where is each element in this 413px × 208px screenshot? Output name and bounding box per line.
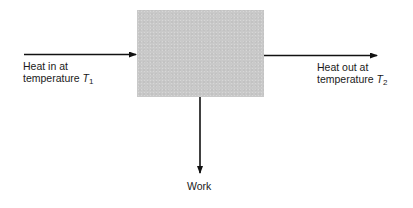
work-label: Work [187, 180, 211, 192]
subscript-2: 2 [383, 78, 387, 87]
subscript-1: 1 [89, 77, 93, 86]
heat-out-label: Heat out at temperature T2 [317, 61, 387, 89]
heat-out-line1: Heat out at [317, 61, 387, 73]
heat-out-line2: temperature T2 [317, 73, 387, 89]
heat-out-prefix: temperature [317, 73, 374, 85]
heat-in-prefix: temperature [23, 72, 80, 84]
arrows-layer [0, 0, 413, 208]
heat-in-line1: Heat in at [23, 60, 93, 72]
heat-in-line2: temperature T1 [23, 72, 93, 88]
heat-in-label: Heat in at temperature T1 [23, 60, 93, 88]
